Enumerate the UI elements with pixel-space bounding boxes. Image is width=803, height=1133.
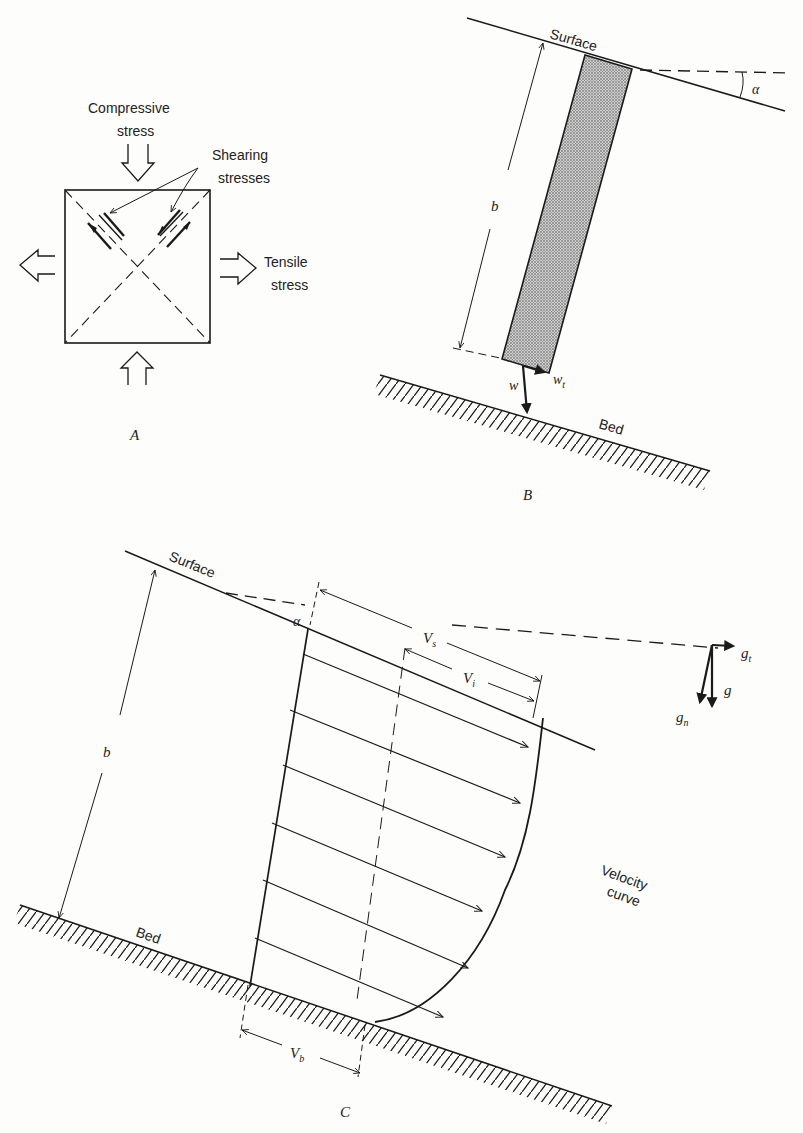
panel-a-caption: A <box>129 427 140 443</box>
horizontal-reference-b <box>640 70 791 73</box>
shearing-label-line2: stresses <box>218 170 270 186</box>
vi-dim-right <box>488 683 534 701</box>
compressive-label-line1: Compressive <box>88 100 170 116</box>
g-label: g <box>724 682 732 698</box>
vi-vb-dashed-vertical <box>357 648 405 1000</box>
thickness-label-c: b <box>103 744 111 760</box>
thickness-dim-foot-b <box>453 348 500 358</box>
panel-b-caption: B <box>523 487 532 503</box>
gn-label: gn <box>676 709 689 728</box>
compressive-label-line2: stress <box>117 123 154 139</box>
thickness-dim-top-b <box>508 43 543 170</box>
vs-tick-left <box>310 582 319 625</box>
surface-line-c <box>125 551 595 750</box>
vs-dim-left <box>320 590 412 628</box>
weight-tangential-label: wt <box>553 372 565 390</box>
compressive-arrow-top-icon <box>122 144 154 181</box>
compressive-arrow-bottom-icon <box>121 352 153 385</box>
angle-label-b: α <box>752 82 760 97</box>
thickness-dim-top-c <box>120 570 155 715</box>
thickness-dim-bottom-b <box>460 229 490 348</box>
column-left-boundary <box>250 629 308 986</box>
weight-label: w <box>509 378 519 393</box>
surface-line-b <box>467 18 785 111</box>
vs-dim-right <box>447 643 540 681</box>
tensile-label-line1: Tensile <box>264 254 308 270</box>
angle-arc-b <box>740 72 743 97</box>
vb-dim-right <box>320 1058 360 1073</box>
bed-label-b: Bed <box>597 416 625 438</box>
panel-a: Compressive stress Shearing stresses <box>20 100 308 443</box>
shearing-label-line1: Shearing <box>212 147 268 163</box>
ice-column <box>502 55 632 373</box>
vs-label: Vs <box>423 630 436 649</box>
tensile-arrow-left-icon <box>20 250 55 281</box>
bed-hatch-b <box>374 375 710 490</box>
vi-dim-left <box>405 649 452 669</box>
tensile-label-line2: stress <box>271 277 308 293</box>
panel-c-caption: C <box>340 1104 351 1120</box>
velocity-curve <box>375 718 543 1022</box>
thickness-label-b: b <box>491 198 499 214</box>
panel-c: Surface α b Vs Vi <box>14 548 752 1124</box>
weight-vector-icon <box>523 366 527 412</box>
shear-pair-left-icon <box>88 213 124 249</box>
bed-hatch-c <box>14 905 612 1124</box>
horizontal-reference-c-right <box>452 625 718 648</box>
bed-label-c: Bed <box>134 924 163 947</box>
thickness-dim-bottom-c <box>59 773 102 918</box>
vi-label: Vi <box>463 670 475 689</box>
vb-label: Vb <box>290 1045 304 1064</box>
vb-dim-left <box>242 1030 282 1045</box>
surface-label-c: Surface <box>167 548 218 581</box>
gt-label: gt <box>741 645 752 664</box>
glacier-stress-diagram: Compressive stress Shearing stresses <box>0 0 803 1133</box>
vs-tick-right <box>533 675 542 718</box>
panel-b: Surface α b w wt Bed B <box>374 18 791 503</box>
angle-label-c: α <box>293 614 301 629</box>
tensile-arrow-right-icon <box>220 253 256 284</box>
